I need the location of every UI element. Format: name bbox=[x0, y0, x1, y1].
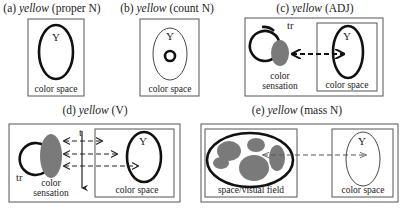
y-label: Y bbox=[343, 30, 351, 42]
color-space-label: color space bbox=[35, 84, 78, 94]
y-label: Y bbox=[358, 135, 366, 147]
color-sensation-blob bbox=[271, 40, 289, 66]
panel-b-title: (b) yellow (count N) bbox=[120, 2, 214, 15]
color-space-label: color space bbox=[326, 80, 369, 90]
sensation-label-line2: sensation bbox=[33, 188, 69, 198]
visual-field-label: space/visual field bbox=[218, 185, 284, 195]
panel-e-mass-noun: (e) yellow (mass N) space/visual field Y… bbox=[201, 104, 398, 202]
yellow-construal-diagram: (a) yellow (proper N) Y color space (b) … bbox=[0, 0, 402, 217]
color-space-label: color space bbox=[342, 185, 385, 195]
sensation-label-line1: color bbox=[270, 71, 290, 81]
panel-b-count-noun: (b) yellow (count N) Y color space bbox=[120, 2, 214, 96]
panel-d-title: (d) yellow (V) bbox=[62, 104, 127, 117]
tr-label: tr bbox=[16, 172, 23, 183]
sensation-label-line2: sensation bbox=[262, 81, 298, 91]
panel-d-verb: (d) yellow (V) tr color sensation t Y co… bbox=[9, 104, 180, 202]
y-label: Y bbox=[52, 31, 60, 43]
yellow-patch-2 bbox=[247, 138, 265, 152]
tr-label: tr bbox=[287, 20, 294, 31]
panel-e-title: (e) yellow (mass N) bbox=[252, 104, 343, 117]
yellow-patch-4 bbox=[213, 157, 229, 169]
panel-c-title: (c) yellow (ADJ) bbox=[276, 2, 353, 15]
color-space-label: color space bbox=[116, 185, 159, 195]
panel-a-title: (a) yellow (proper N) bbox=[3, 2, 101, 15]
yellow-patch-5 bbox=[239, 155, 269, 181]
y-label: Y bbox=[166, 30, 174, 42]
panel-c-adjective: (c) yellow (ADJ) tr color sensation Y co… bbox=[245, 2, 383, 96]
color-space-label: color space bbox=[149, 84, 192, 94]
panel-a-proper-noun: (a) yellow (proper N) Y color space bbox=[3, 2, 101, 96]
y-label: Y bbox=[139, 135, 147, 147]
color-sensation-blob bbox=[40, 134, 62, 178]
yellow-patch-3 bbox=[269, 145, 285, 171]
sensation-label-line1: color bbox=[41, 178, 61, 188]
